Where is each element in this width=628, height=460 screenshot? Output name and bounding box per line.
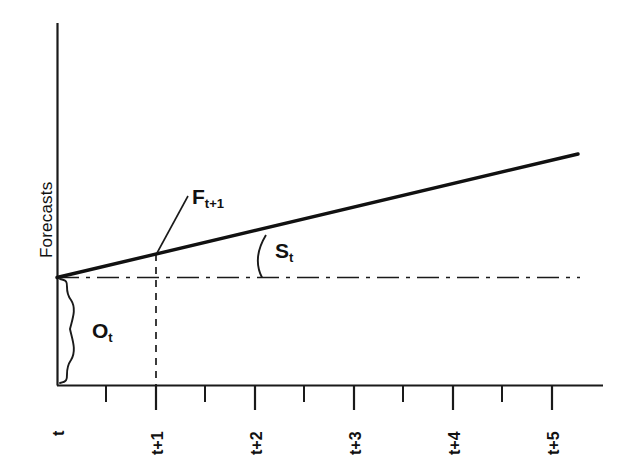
forecast-annotation-sub: t+1	[205, 196, 224, 211]
x-axis-major-ticks	[156, 386, 552, 411]
x-tick-label-t1: t+1	[150, 431, 166, 455]
forecast-label-leader-line	[157, 196, 188, 253]
x-tick-label-t3: t+3	[348, 431, 364, 455]
y-axis-title: Forecasts	[38, 182, 55, 258]
x-tick-label-t2: t+2	[249, 431, 265, 455]
forecast-trend-line	[57, 154, 578, 278]
slope-annotation-base: S	[275, 239, 289, 262]
x-tick-label-t5: t+5	[546, 431, 562, 455]
forecast-annotation-label: Ft+1	[192, 186, 224, 207]
chart-canvas	[0, 0, 628, 460]
forecast-annotation-base: F	[192, 185, 205, 208]
forecast-decomposition-figure: Forecasts t t+1 t+2 t+3 t+4 t+5 Ft+1 St …	[0, 0, 628, 460]
x-tick-label-t: t	[51, 431, 67, 436]
x-tick-label-t4: t+4	[447, 431, 463, 455]
x-axis-minor-ticks	[106, 386, 502, 403]
level-annotation-base: O	[92, 319, 108, 342]
slope-angle-arc	[258, 235, 266, 278]
level-curly-brace	[60, 279, 74, 383]
level-annotation-sub: t	[108, 330, 112, 345]
slope-annotation-sub: t	[289, 250, 293, 265]
slope-annotation-label: St	[275, 240, 293, 261]
level-annotation-label: Ot	[92, 320, 113, 341]
